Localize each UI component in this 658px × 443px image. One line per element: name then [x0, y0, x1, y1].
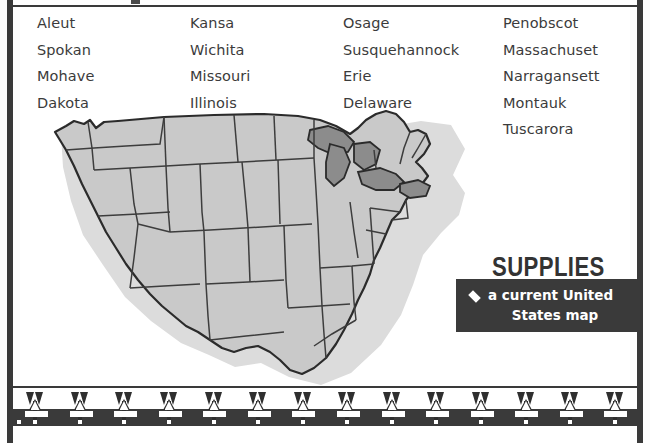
- arrow-icon: [71, 392, 89, 422]
- arrow-icon: [517, 392, 535, 422]
- arrow-icon: [427, 392, 445, 422]
- border-dash: [337, 411, 360, 417]
- border-dot: [434, 420, 438, 424]
- arrow-icon: [26, 392, 44, 422]
- border-band-lower: [13, 421, 637, 426]
- border-dash: [560, 411, 583, 417]
- arrow-icon: [606, 392, 624, 422]
- arrow-icon: [205, 392, 223, 422]
- word-item: Mohave: [37, 63, 95, 90]
- supplies-item-line1: a current United: [488, 287, 613, 303]
- border-dot: [256, 420, 260, 424]
- arrow-icon: [338, 392, 356, 422]
- border-dash: [159, 411, 182, 417]
- word-column-3: Osage Susquehannock Erie Delaware: [343, 10, 459, 116]
- border-band: [13, 409, 637, 421]
- border-dot: [568, 420, 572, 424]
- word-item: Massachuset: [503, 37, 600, 64]
- united-states-map: [14, 108, 544, 393]
- supplies-item-line2: States map: [488, 305, 630, 325]
- diamond-bullet-icon: [468, 290, 481, 303]
- arrow-icon: [561, 392, 579, 422]
- word-item: Missouri: [190, 63, 251, 90]
- word-item: Wichita: [190, 37, 251, 64]
- word-item: Erie: [343, 63, 459, 90]
- arrow-icon: [115, 392, 133, 422]
- border-dash: [70, 411, 93, 417]
- border-dash: [203, 411, 226, 417]
- border-dash: [471, 411, 494, 417]
- border-dot: [17, 420, 21, 424]
- border-dash: [382, 411, 405, 417]
- word-column-1: Aleut Spokan Mohave Dakota: [37, 10, 95, 116]
- page-canvas: Aleut Spokan Mohave Dakota Kansa Wichita…: [0, 0, 658, 443]
- word-item: Narragansett: [503, 63, 600, 90]
- border-dot: [301, 420, 305, 424]
- border-dash: [25, 411, 48, 417]
- word-item: Susquehannock: [343, 37, 459, 64]
- supplies-box: a current United States map: [456, 279, 637, 332]
- border-dash: [248, 411, 271, 417]
- border-dot: [524, 420, 528, 424]
- border-dash: [114, 411, 137, 417]
- word-column-2: Kansa Wichita Missouri Illinois: [190, 10, 251, 116]
- border-dot: [479, 420, 483, 424]
- arrow-icon: [294, 392, 312, 422]
- border-dot: [167, 420, 171, 424]
- border-dot: [390, 420, 394, 424]
- border-dot: [212, 420, 216, 424]
- word-item: Spokan: [37, 37, 95, 64]
- arrow-icon: [472, 392, 490, 422]
- supplies-item: a current United States map: [488, 285, 630, 325]
- border-dot: [613, 420, 617, 424]
- border-dot: [345, 420, 349, 424]
- word-item: Kansa: [190, 10, 251, 37]
- word-item: Aleut: [37, 10, 95, 37]
- arrow-icon: [160, 392, 178, 422]
- border-dot: [122, 420, 126, 424]
- border-dash: [604, 411, 627, 417]
- border-dot: [78, 420, 82, 424]
- arrow-icon: [249, 392, 267, 422]
- arrow-icon: [383, 392, 401, 422]
- border-dash: [515, 411, 538, 417]
- word-item: Osage: [343, 10, 459, 37]
- border-dot: [33, 420, 37, 424]
- border-dash: [426, 411, 449, 417]
- word-item: Penobscot: [503, 10, 600, 37]
- border-dash: [292, 411, 315, 417]
- arrow-decorative-border: [13, 392, 637, 434]
